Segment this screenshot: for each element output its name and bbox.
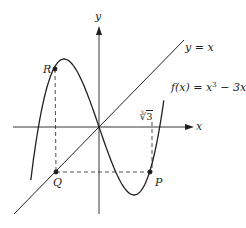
point-q — [54, 170, 59, 175]
function-diagram — [0, 0, 246, 228]
identity-line-label: y = x — [185, 42, 214, 53]
x-axis-arrow-icon — [185, 124, 194, 130]
y-axis-arrow-icon — [96, 26, 102, 35]
y-axis-label: y — [95, 11, 101, 22]
dashed-guide-r-q — [55, 69, 56, 172]
point-r — [53, 67, 58, 72]
point-p-label: P — [155, 177, 162, 188]
point-q-label: Q — [53, 177, 62, 188]
point-p — [148, 170, 153, 175]
cuberoot-radicand: 3 — [146, 110, 152, 122]
cubic-label-lhs: f(x) = x — [171, 81, 212, 94]
point-r-label: R — [43, 64, 51, 75]
cubic-label: f(x) = x3 − 3x — [171, 82, 246, 93]
cubic-label-rhs: − 3x — [217, 81, 246, 94]
cuberoot3-label: 3√3 — [140, 110, 153, 122]
x-axis-label: x — [196, 121, 202, 132]
